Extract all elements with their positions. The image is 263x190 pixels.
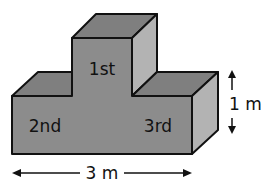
podium-diagram: 1st 2nd 3rd 1 m 3 m [0, 0, 263, 190]
arrow-right-icon [183, 169, 192, 177]
arrow-down-icon [228, 126, 236, 134]
first-place-label: 1st [89, 59, 116, 79]
second-place-top-face [12, 72, 72, 96]
width-dimension: 3 m [12, 163, 192, 183]
width-label: 3 m [86, 163, 119, 183]
arrow-left-icon [12, 169, 21, 177]
arrow-up-icon [228, 70, 236, 78]
second-place-label: 2nd [29, 116, 61, 136]
third-place-label: 3rd [144, 116, 172, 136]
height-dimension: 1 m [228, 70, 262, 134]
height-label: 1 m [229, 94, 262, 114]
podium-front-face [12, 38, 192, 154]
